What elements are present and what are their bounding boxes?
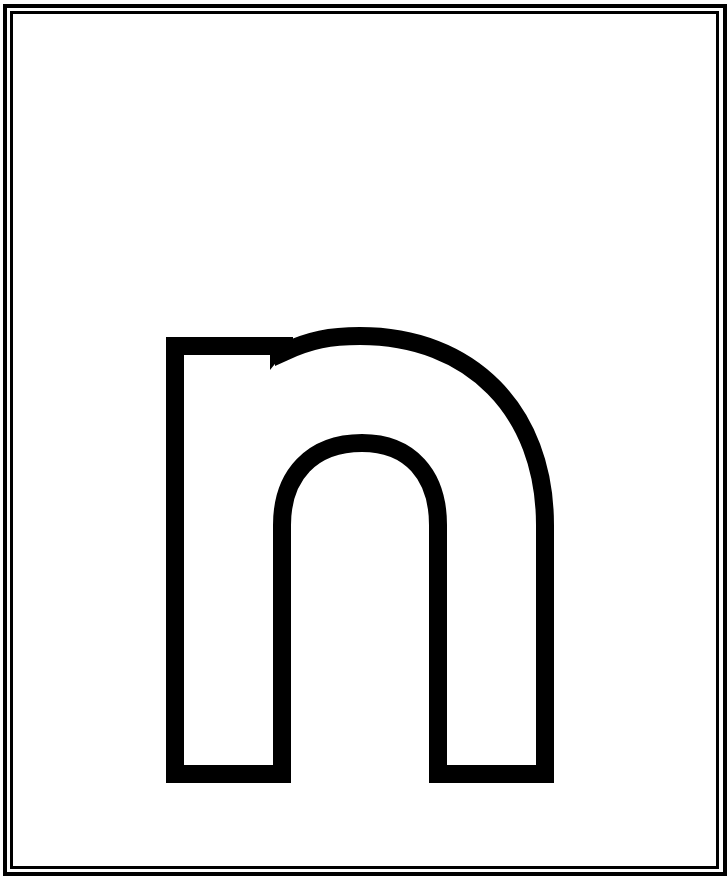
letter-n-outline bbox=[0, 0, 727, 877]
letter-n-outer-contour bbox=[175, 336, 545, 774]
